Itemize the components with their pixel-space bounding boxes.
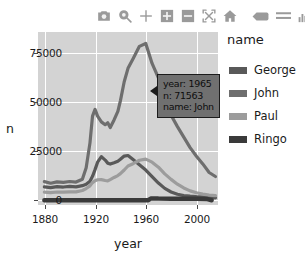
series-line-paul [44,159,215,196]
series-lines [38,32,218,205]
legend-label-ringo: Ringo [254,132,287,146]
xtick-label-1920: 1920 [83,213,109,225]
legend: name George John Paul Ringo [229,32,305,151]
spike-lines-icon[interactable] [251,9,269,24]
xtick-label-1880: 1880 [32,213,58,225]
series-line-ringo [44,198,211,200]
ytick-mark-50000 [34,102,38,103]
x-axis-label: year [38,236,218,251]
plot-panel[interactable] [38,32,218,205]
xtick-mark-1880 [45,205,46,209]
xtick-label-1960: 1960 [133,213,159,225]
legend-item-john[interactable]: John [229,82,305,104]
tooltip-line-year: year: 1965 [163,78,214,90]
zoom-in-icon[interactable] [159,9,174,24]
plotly-logo-icon[interactable] [297,9,305,24]
xtick-mark-1960 [146,205,147,209]
home-icon[interactable] [222,9,237,24]
ytick-mark-75000 [34,53,38,54]
hover-tooltip: year: 1965 n: 71563 name: John [157,74,220,118]
camera-icon[interactable] [96,9,111,24]
legend-label-george: George [254,63,296,77]
y-axis-label: n [6,121,14,136]
legend-item-george[interactable]: George [229,59,305,81]
plotly-modebar[interactable] [96,7,296,25]
xtick-label-2000: 2000 [184,213,210,225]
autoscale-icon[interactable] [201,9,216,24]
compare-data-icon[interactable] [275,9,291,24]
tooltip-arrow [150,86,157,96]
ytick-label-0: 0 [56,194,62,206]
legend-title: name [227,32,305,47]
pan-icon[interactable] [138,9,153,24]
zoom-icon[interactable] [117,9,132,24]
ytick-mark-0 [34,200,38,201]
legend-label-john: John [254,86,279,100]
zoom-out-icon[interactable] [180,9,195,24]
legend-label-paul: Paul [254,109,278,123]
legend-swatch-paul [229,113,247,120]
xtick-mark-2000 [197,205,198,209]
xtick-mark-1920 [96,205,97,209]
tooltip-line-n: n: 71563 [163,90,214,102]
ytick-mark-25000 [34,151,38,152]
tooltip-line-name: name: John [163,101,214,113]
legend-swatch-george [229,67,247,74]
legend-item-ringo[interactable]: Ringo [229,128,305,150]
legend-item-paul[interactable]: Paul [229,105,305,127]
legend-swatch-ringo [229,136,247,143]
legend-swatch-john [229,90,247,97]
